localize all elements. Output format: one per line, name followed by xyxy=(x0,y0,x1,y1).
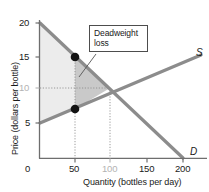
deadweight-loss-callout-line1: Deadweight xyxy=(94,28,144,38)
y-tick-label-5: 5 xyxy=(25,117,30,128)
supply-curve-label: S xyxy=(196,47,203,58)
x-tick-label-50: 50 xyxy=(69,163,79,174)
demand-curve-label: D xyxy=(190,146,197,157)
x-tick-label-200: 200 xyxy=(175,163,190,174)
y-axis-label: Price (dollars per bottle) xyxy=(10,62,20,155)
deadweight-loss-callout: Deadweight loss xyxy=(89,25,148,52)
y-tick-label-0: 0 xyxy=(25,163,30,174)
price-with-tax-point xyxy=(71,53,80,62)
y-tick-label-15: 15 xyxy=(19,51,29,62)
x-tick-label-150: 150 xyxy=(139,163,154,174)
deadweight-loss-chart: 20 15 10 5 0 50 100 150 200 Price (dolla… xyxy=(0,0,209,192)
x-tick-label-100: 100 xyxy=(102,163,117,174)
y-tick-label-20: 20 xyxy=(19,17,29,28)
deadweight-loss-callout-line2: loss xyxy=(94,38,144,48)
x-axis-label: Quantity (bottles per day) xyxy=(83,177,181,187)
y-tick-label-10: 10 xyxy=(19,82,29,93)
seller-receives-point xyxy=(71,105,80,114)
